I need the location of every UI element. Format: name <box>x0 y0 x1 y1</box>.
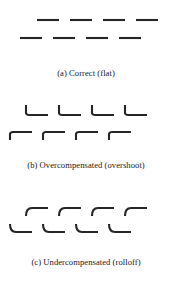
panel-caption-a: (a) Correct (flat) <box>0 68 172 79</box>
waveform-undercompensated <box>0 196 172 252</box>
trace-group-undercompensated <box>10 208 147 232</box>
panel-correct-flat: (a) Correct (flat) <box>0 8 172 88</box>
trace-group-overcompensated <box>10 105 147 140</box>
waveform-svg-overcompensated <box>0 100 172 156</box>
trace-high-row-undercompensated <box>26 208 147 216</box>
waveform-svg-undercompensated <box>0 196 172 252</box>
trace-group-correct <box>20 20 158 38</box>
panel-caption-c: (c) Undercompensated (rolloff) <box>0 257 172 268</box>
panel-caption-b: (b) Overcompensated (overshoot) <box>0 160 172 171</box>
waveform-overcompensated <box>0 100 172 156</box>
probe-compensation-figure: (a) Correct (flat) <box>0 0 172 288</box>
waveform-svg-correct <box>0 8 172 64</box>
panel-undercompensated-rolloff: (c) Undercompensated (rolloff) <box>0 196 172 280</box>
trace-low-row-undercompensated <box>10 224 131 232</box>
waveform-correct-flat <box>0 8 172 64</box>
trace-high-row-overcompensated <box>26 105 147 115</box>
trace-low-row-overcompensated <box>10 132 131 140</box>
panel-overcompensated-overshoot: (b) Overcompensated (overshoot) <box>0 100 172 184</box>
